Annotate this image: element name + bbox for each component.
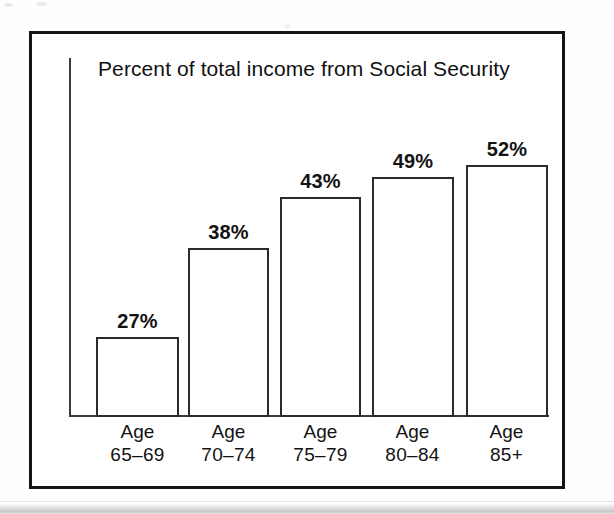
bar-value-label-age-70-74: 38% [188,221,269,244]
category-line-1: Age [121,421,155,442]
scan-bottom-rule [0,501,614,502]
category-line-1: Age [490,421,524,442]
category-line-2: 70–74 [179,443,278,466]
scan-artifact-top-left-a [4,3,13,7]
scanned-page: Percent of total income from Social Secu… [0,0,614,514]
category-line-2: 65–69 [88,443,187,466]
category-line-2: 80–84 [363,443,462,466]
bar-age-85-plus [466,165,548,417]
scan-bottom-band [0,503,614,514]
bar-category-label-age-75-79: Age 75–79 [271,420,370,466]
bar-category-label-age-85-plus: Age 85+ [457,420,556,466]
bar-value-label-age-80-84: 49% [372,150,454,173]
bar-age-75-79 [280,197,361,417]
category-line-2: 75–79 [271,443,370,466]
category-line-2: 85+ [457,443,556,466]
bar-value-label-age-75-79: 43% [280,170,361,193]
bar-category-label-age-80-84: Age 80–84 [363,420,462,466]
bar-age-80-84 [372,177,454,417]
bar-value-label-age-85-plus: 52% [466,138,548,161]
bar-age-70-74 [188,248,269,417]
category-line-1: Age [212,421,246,442]
bar-category-label-age-65-69: Age 65–69 [88,420,187,466]
chart-frame: Percent of total income from Social Secu… [29,31,565,489]
chart-title: Percent of total income from Social Secu… [98,56,538,82]
scan-artifact-top-mid [284,24,291,29]
bar-value-label-age-65-69: 27% [96,310,179,333]
bar-chart-plot: Percent of total income from Social Secu… [32,34,568,492]
y-axis-line [69,58,71,417]
bar-category-label-age-70-74: Age 70–74 [179,420,278,466]
scan-artifact-top-left-b [36,2,47,6]
category-line-1: Age [304,421,338,442]
category-line-1: Age [396,421,430,442]
bar-age-65-69 [96,337,179,417]
